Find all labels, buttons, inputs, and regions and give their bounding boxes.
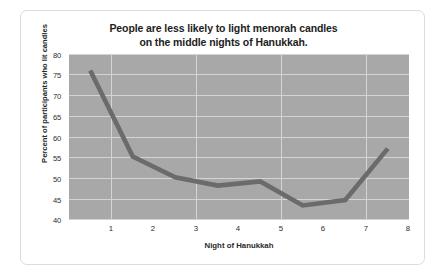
y-tick-label-70: 70 [35,92,61,101]
y-tick-label-60: 60 [35,134,61,143]
x-tick-label-1: 1 [101,224,121,233]
chart-card: People are less likely to light menorah … [20,10,425,265]
y-tick-label-65: 65 [35,113,61,122]
x-tick-label-5: 5 [271,224,291,233]
data-series-line [69,54,409,220]
y-tick-label-55: 55 [35,154,61,163]
y-tick-label-75: 75 [35,71,61,80]
x-tick-label-3: 3 [186,224,206,233]
x-tick-label-4: 4 [228,224,248,233]
x-tick-label-6: 6 [313,224,333,233]
x-axis-title: Night of Hanukkah [69,241,409,250]
plot-wrapper: Percent of participants who lit candles … [21,11,426,266]
x-tick-label-7: 7 [356,224,376,233]
y-tick-label-45: 45 [35,196,61,205]
plot-area [69,54,409,220]
y-tick-label-40: 40 [35,216,61,225]
x-tick-label-8: 8 [398,224,418,233]
x-tick-label-2: 2 [143,224,163,233]
y-tick-label-50: 50 [35,175,61,184]
y-tick-label-80: 80 [35,51,61,60]
